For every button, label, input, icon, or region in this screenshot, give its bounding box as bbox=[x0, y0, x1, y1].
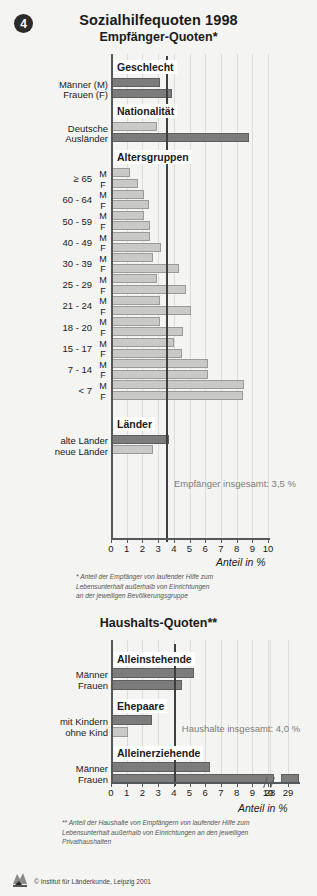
gridline bbox=[252, 640, 253, 782]
row-label: Ausländer bbox=[65, 134, 108, 144]
row-label: neue Länder bbox=[55, 447, 108, 457]
bar bbox=[111, 243, 161, 252]
x-axis-tick-label: 8 bbox=[230, 544, 244, 554]
row-label: 60 - 64 bbox=[62, 195, 92, 205]
x-axis-caption: Anteil in % bbox=[238, 802, 288, 814]
bar bbox=[111, 221, 150, 230]
x-axis-tick-mark bbox=[288, 784, 289, 787]
gridline bbox=[268, 640, 269, 782]
x-axis-tick-mark bbox=[252, 784, 253, 787]
row-label: Frauen (F) bbox=[63, 90, 108, 100]
row-label: 40 - 49 bbox=[62, 238, 92, 248]
x-axis-tick-mark bbox=[174, 784, 175, 787]
footnote-two: ** Anteil der Haushalte von Empfängern v… bbox=[62, 818, 249, 847]
group-heading-länder: Länder bbox=[114, 417, 155, 431]
x-axis-tick-mark bbox=[174, 540, 175, 543]
bar bbox=[111, 762, 210, 772]
bar bbox=[111, 122, 157, 131]
sex-label-m: M bbox=[98, 212, 108, 221]
gridline bbox=[221, 640, 222, 782]
group-heading-altersgruppen: Altersgruppen bbox=[114, 150, 192, 164]
bar bbox=[111, 168, 130, 177]
sex-label-m: M bbox=[98, 297, 108, 306]
x-axis-tick-mark bbox=[270, 784, 271, 787]
sex-label-f: F bbox=[98, 244, 108, 253]
bar bbox=[111, 133, 249, 142]
x-axis-line bbox=[111, 538, 270, 540]
sex-label-m: M bbox=[98, 361, 108, 370]
gridline-after-break bbox=[288, 640, 289, 782]
x-axis-tick-label: 4 bbox=[167, 544, 181, 554]
x-axis-tick-label: 9 bbox=[245, 544, 259, 554]
x-axis-tick-label: 6 bbox=[198, 544, 212, 554]
sex-label-m: M bbox=[98, 318, 108, 327]
sex-label-f: F bbox=[98, 350, 108, 359]
x-axis-tick-mark bbox=[237, 540, 238, 543]
x-axis-tick-mark bbox=[158, 784, 159, 787]
top-reference-annotation: Empfänger insgesamt: 3,5 % bbox=[174, 478, 296, 489]
bar bbox=[111, 370, 208, 379]
bar bbox=[111, 179, 138, 188]
x-axis-tick-mark bbox=[190, 540, 191, 543]
bar bbox=[111, 89, 172, 98]
x-axis-tick-mark bbox=[205, 540, 206, 543]
footnote-one: * Anteil der Empfänger von laufender Hil… bbox=[76, 572, 213, 601]
bar bbox=[111, 253, 153, 262]
x-axis-tick-mark bbox=[142, 784, 143, 787]
gridline bbox=[252, 54, 253, 538]
bar bbox=[111, 359, 208, 368]
x-axis-tick-label: 2 bbox=[135, 544, 149, 554]
x-axis-tick-label: 29 bbox=[281, 788, 295, 798]
gridline bbox=[205, 54, 206, 538]
page-title: Sozialhilfequoten 1998 bbox=[0, 12, 317, 28]
gridline bbox=[190, 54, 191, 538]
sex-label-m: M bbox=[98, 382, 108, 391]
bar bbox=[111, 317, 160, 326]
gridline bbox=[174, 54, 175, 538]
bar bbox=[111, 349, 182, 358]
bar bbox=[111, 274, 157, 283]
row-label: 21 - 24 bbox=[62, 301, 92, 311]
gridline bbox=[221, 54, 222, 538]
x-axis-tick-label: 3 bbox=[151, 544, 165, 554]
bar bbox=[111, 668, 194, 678]
chart-top-subtitle: Empfänger-Quoten* bbox=[0, 30, 317, 44]
row-label: ≥ 65 bbox=[74, 174, 92, 184]
bar bbox=[111, 190, 144, 199]
x-axis-tick-label: 1 bbox=[120, 544, 134, 554]
x-axis-tick-label: 7 bbox=[214, 544, 228, 554]
sex-label-f: F bbox=[98, 223, 108, 232]
gridline bbox=[268, 54, 269, 538]
bar bbox=[111, 296, 160, 305]
sex-label-f: F bbox=[98, 287, 108, 296]
copyright-text: © Institut für Länderkunde, Leipzig 2001 bbox=[34, 878, 151, 885]
x-axis-caption: Anteil in % bbox=[216, 556, 266, 568]
bar bbox=[111, 727, 128, 737]
x-axis-tick-label: 7 bbox=[214, 788, 228, 798]
bar bbox=[111, 200, 149, 209]
gridline bbox=[237, 54, 238, 538]
x-axis-tick-mark bbox=[190, 784, 191, 787]
x-axis-tick-label: 28 bbox=[263, 788, 277, 798]
bar bbox=[111, 338, 174, 347]
x-axis-tick-mark bbox=[127, 540, 128, 543]
x-axis-tick-label: 5 bbox=[183, 788, 197, 798]
bar bbox=[111, 327, 183, 336]
row-label: Deutsche bbox=[68, 124, 108, 134]
x-axis-tick-label: 1 bbox=[120, 788, 134, 798]
sex-label-m: M bbox=[98, 191, 108, 200]
sex-label-f: F bbox=[98, 265, 108, 274]
x-axis-tick-label: 3 bbox=[151, 788, 165, 798]
row-label: Frauen bbox=[78, 681, 108, 691]
sex-label-m: M bbox=[98, 255, 108, 264]
x-axis-tick-label: 0 bbox=[104, 544, 118, 554]
row-label: Frauen bbox=[78, 775, 108, 785]
reference-line bbox=[166, 56, 168, 542]
group-heading-alleinerziehende: Alleinerziehende bbox=[114, 746, 203, 760]
sex-label-f: F bbox=[98, 202, 108, 211]
x-axis-tick-mark bbox=[252, 540, 253, 543]
y-axis-line bbox=[111, 54, 113, 538]
x-axis-tick-label: 9 bbox=[245, 788, 259, 798]
x-axis-tick-mark bbox=[111, 540, 112, 543]
x-axis-tick-mark bbox=[142, 540, 143, 543]
